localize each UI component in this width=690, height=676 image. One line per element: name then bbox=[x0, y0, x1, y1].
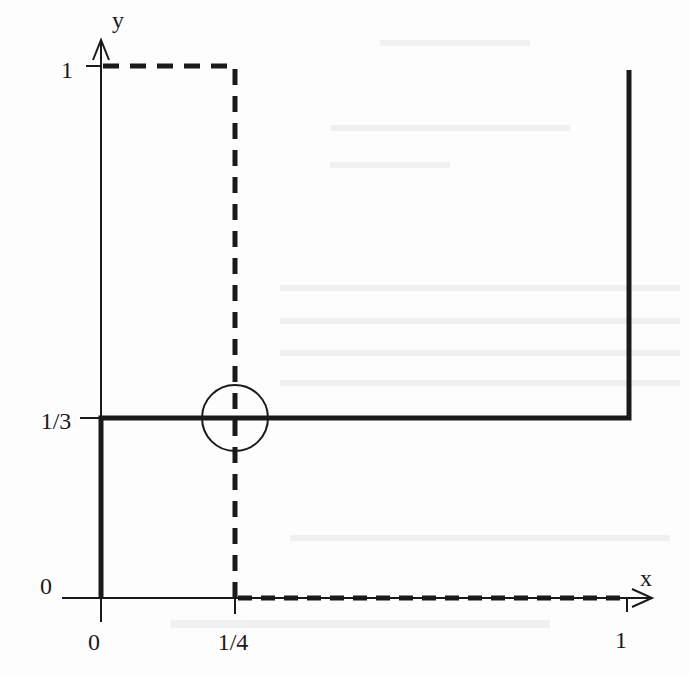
x-tick-label-0: 0 bbox=[88, 629, 100, 655]
bleed-through-text bbox=[170, 40, 680, 628]
x-axis bbox=[62, 589, 652, 614]
x-tick-label-quarter: 1/4 bbox=[218, 629, 249, 655]
y-tick-label-third: 1/3 bbox=[41, 408, 72, 434]
dashed-best-response-curve bbox=[103, 66, 627, 598]
best-response-diagram: y x 1 1/3 0 0 1/4 1 bbox=[0, 0, 690, 676]
y-tick-label-0: 0 bbox=[40, 573, 52, 599]
y-axis-label: y bbox=[112, 7, 124, 33]
solid-best-response-curve bbox=[101, 70, 629, 598]
x-axis-label: x bbox=[640, 565, 652, 591]
y-tick-label-1: 1 bbox=[61, 57, 73, 83]
scanned-page: y x 1 1/3 0 0 1/4 1 bbox=[0, 0, 690, 676]
y-axis bbox=[80, 40, 109, 622]
x-tick-label-1: 1 bbox=[615, 627, 627, 653]
